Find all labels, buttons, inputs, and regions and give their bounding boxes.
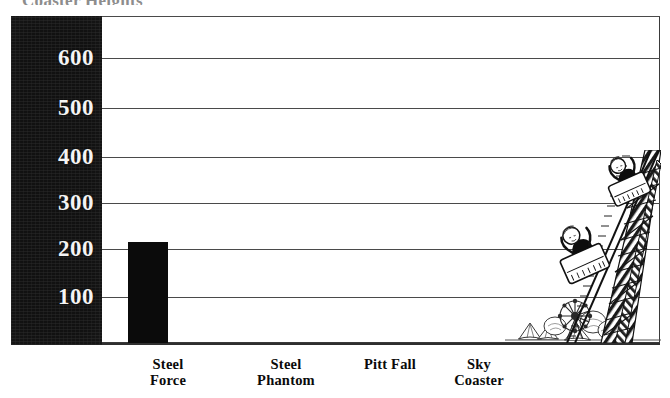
bar-chart: Coaster Heights	[0, 0, 670, 398]
y-tick-400: 400	[14, 144, 94, 170]
x-label-steel-force-line2: Force	[108, 372, 228, 388]
y-tick-500: 500	[14, 95, 94, 121]
x-label-steel-force: Steel Force	[108, 356, 228, 388]
x-label-steel-force-line1: Steel	[108, 356, 228, 372]
x-label-sky-coaster-line1: Sky	[418, 356, 540, 372]
gridline-300	[101, 203, 660, 204]
y-axis-band: 600 500 400 300 200 100	[11, 16, 102, 345]
y-tick-200: 200	[14, 236, 94, 262]
gridline-500	[101, 108, 660, 109]
gridline-200	[101, 249, 660, 250]
x-label-sky-coaster: Sky Coaster	[418, 356, 540, 388]
y-tick-300: 300	[14, 190, 94, 216]
page-title: Coaster Heights	[22, 0, 322, 5]
x-label-sky-coaster-line2: Coaster	[418, 372, 540, 388]
gridline-100	[101, 297, 660, 298]
axis-baseline	[101, 343, 660, 345]
gridline-600	[101, 58, 660, 59]
gridline-top	[101, 16, 660, 17]
bar-steel-force	[128, 242, 168, 343]
y-tick-100: 100	[14, 284, 94, 310]
y-tick-600: 600	[14, 45, 94, 71]
plot-area	[101, 16, 660, 343]
gridline-400	[101, 157, 660, 158]
x-label-steel-phantom-line2: Phantom	[222, 372, 350, 388]
